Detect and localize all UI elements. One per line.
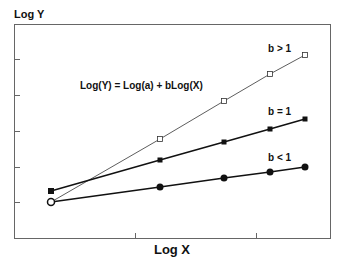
x-axis-label: Log X [154, 242, 190, 257]
filled-square-marker [222, 140, 227, 145]
filled-circle-marker [157, 184, 164, 191]
y-axis-label: Log Y [14, 8, 45, 20]
filled-square-marker [303, 117, 308, 122]
log-log-chart: Log Y Log X Log(Y) = Log(a) + bLog(X) b … [0, 0, 342, 267]
filled-square-marker [158, 158, 163, 163]
open-square-marker [158, 137, 163, 142]
filled-circle-marker [267, 169, 274, 176]
open-square-marker [303, 53, 308, 58]
filled-circle-marker [221, 175, 228, 182]
series-b-lt-1: b < 1 [51, 152, 309, 202]
open-square-marker [268, 72, 273, 77]
series-b-eq-1: b = 1 [48, 106, 308, 194]
series-label-b-eq-1: b = 1 [268, 106, 292, 117]
origin-open-circle-marker [48, 199, 55, 206]
filled-square-marker [268, 127, 273, 132]
filled-square-marker [48, 188, 54, 194]
equation-annotation: Log(Y) = Log(a) + bLog(X) [80, 80, 203, 91]
filled-circle-marker [302, 164, 309, 171]
series-label-b-lt-1: b < 1 [268, 152, 292, 163]
series-b-gt-1: b > 1 [51, 43, 308, 202]
open-square-marker [222, 99, 227, 104]
series-label-b-gt-1: b > 1 [268, 43, 292, 54]
